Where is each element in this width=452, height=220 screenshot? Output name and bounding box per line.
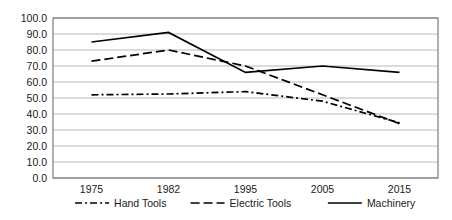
y-axis-tick-labels: 0.010.020.030.040.050.060.070.080.090.01… [21, 12, 47, 184]
y-axis-tick-label: 30.0 [27, 124, 48, 136]
x-axis-tick-label: 1975 [80, 183, 104, 195]
x-axis-tick-label: 1995 [234, 183, 258, 195]
chart-canvas: 0.010.020.030.040.050.060.070.080.090.01… [0, 0, 452, 220]
y-axis-tick-label: 60.0 [27, 76, 48, 88]
series-group [92, 32, 400, 123]
y-axis-tick-label: 0.0 [32, 172, 47, 184]
x-axis-tick-label: 2015 [388, 183, 412, 195]
y-axis-tick-label: 50.0 [27, 92, 48, 104]
y-axis-tick-label: 10.0 [27, 156, 48, 168]
y-axis-tick-label: 40.0 [27, 108, 48, 120]
legend-label: Electric Tools [230, 197, 292, 209]
y-axis-tick-label: 20.0 [27, 140, 48, 152]
line-chart: 0.010.020.030.040.050.060.070.080.090.01… [0, 0, 452, 220]
legend-label: Hand Tools [114, 197, 166, 209]
y-axis-tick-label: 70.0 [27, 60, 48, 72]
legend-label: Machinery [367, 197, 416, 209]
y-axis-tick-label: 90.0 [27, 28, 48, 40]
y-axis-tick-label: 100.0 [21, 12, 47, 24]
chart-legend: Hand ToolsElectric ToolsMachinery [75, 197, 416, 209]
x-axis-tick-label: 1982 [157, 183, 181, 195]
y-axis-tick-label: 80.0 [27, 44, 48, 56]
series-line [92, 50, 400, 124]
gridlines-group [53, 18, 438, 178]
x-axis-tick-labels: 19751982199520052015 [80, 183, 412, 195]
x-axis-tick-label: 2005 [311, 183, 335, 195]
series-line [92, 92, 400, 123]
